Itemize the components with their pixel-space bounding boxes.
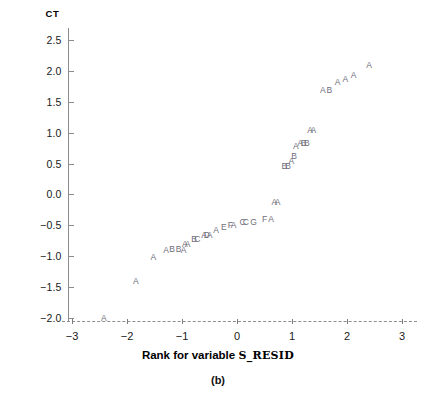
data-point-marker: A	[335, 78, 341, 87]
data-point-marker: A	[213, 226, 219, 235]
data-point-marker: G	[250, 217, 257, 226]
y-axis-line	[68, 28, 69, 321]
y-axis-tick-label: −1.0	[24, 250, 62, 262]
data-point-marker: B	[304, 138, 310, 147]
y-axis-label: CT	[46, 8, 60, 19]
data-point-marker: A	[231, 221, 237, 230]
data-point-marker: E	[221, 222, 227, 231]
y-axis-tick	[69, 225, 74, 226]
data-point-marker: A	[151, 253, 157, 262]
data-point-marker: A	[343, 74, 349, 83]
data-point-marker: A	[351, 71, 357, 80]
y-axis-tick-label: 2.5	[24, 34, 62, 46]
data-point-marker: A	[163, 246, 169, 255]
scatter-plot: −2.0−1.5−1.0−0.50.00.51.01.52.02.5−3−2−1…	[0, 0, 436, 407]
x-axis-tick	[237, 319, 238, 324]
x-axis-variable-name: S_RESID	[238, 349, 294, 362]
data-point-marker: A	[366, 61, 372, 70]
figure-panel: −2.0−1.5−1.0−0.50.00.51.01.52.02.5−3−2−1…	[0, 0, 436, 407]
data-point-marker: A	[268, 215, 274, 224]
data-point-marker: A	[185, 240, 191, 249]
y-axis-tick	[69, 287, 74, 288]
data-point-marker: C	[243, 217, 249, 226]
x-axis-tick	[127, 319, 128, 324]
y-axis-tick-label: 1.0	[24, 127, 62, 139]
data-point-marker: A	[101, 314, 107, 323]
x-axis-tick	[292, 319, 293, 324]
x-axis-label-prefix: Rank for variable	[142, 349, 235, 361]
data-point-marker: A	[311, 126, 317, 135]
y-axis-tick	[69, 71, 74, 72]
data-point-marker: A	[207, 231, 213, 240]
y-axis-tick-label: −1.5	[24, 281, 62, 293]
data-point-marker: A	[275, 198, 281, 207]
x-axis-tick	[182, 319, 183, 324]
x-axis-tick-label: −2	[107, 330, 147, 342]
data-point-marker: B	[327, 85, 333, 94]
x-axis-tick	[402, 319, 403, 324]
data-point-marker: A	[133, 277, 139, 286]
y-axis-tick	[69, 164, 74, 165]
x-axis-tick-label: 1	[272, 330, 312, 342]
data-point-marker: F	[262, 215, 267, 224]
x-axis-tick-label: 2	[327, 330, 367, 342]
x-axis-tick-label: −3	[52, 330, 92, 342]
y-axis-tick-label: 0.5	[24, 158, 62, 170]
x-axis-tick-label: −1	[162, 330, 202, 342]
data-point-marker: C	[194, 235, 200, 244]
y-axis-tick-label: −2.0	[24, 312, 62, 324]
y-axis-tick	[69, 194, 74, 195]
x-axis-tick	[347, 319, 348, 324]
data-point-marker: A	[320, 85, 326, 94]
x-axis-label: Rank for variable S_RESID	[0, 349, 436, 362]
data-point-marker: B	[291, 152, 297, 161]
data-point-marker: B	[169, 244, 175, 253]
y-axis-tick	[69, 40, 74, 41]
x-axis-tick-label: 0	[217, 330, 257, 342]
y-axis-tick-label: 1.5	[24, 96, 62, 108]
y-axis-tick-label: 2.0	[24, 65, 62, 77]
x-axis-tick-label: 3	[382, 330, 422, 342]
y-axis-tick	[69, 256, 74, 257]
y-axis-tick-label: −0.5	[24, 219, 62, 231]
x-axis-line	[62, 321, 417, 322]
y-axis-tick	[69, 102, 74, 103]
y-axis-tick	[69, 133, 74, 134]
x-axis-tick	[72, 319, 73, 324]
y-axis-tick-label: 0.0	[24, 188, 62, 200]
figure-caption: (b)	[0, 374, 436, 386]
